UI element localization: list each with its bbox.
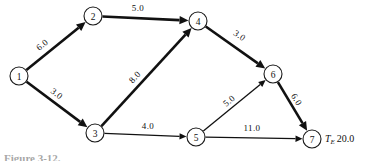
svg-text:TE20.0: TE20.0 — [325, 133, 354, 146]
edge-weight-4-to-6: 3.0 — [232, 28, 248, 43]
node-label-3: 3 — [93, 129, 98, 139]
node-label-5: 5 — [194, 133, 199, 143]
edge-3-to-5 — [104, 133, 186, 139]
edge-3-to-4 — [101, 28, 191, 126]
node-label-2: 2 — [91, 12, 96, 22]
node-7[interactable]: 7 — [303, 130, 321, 148]
node-label-6: 6 — [271, 70, 276, 80]
te-value: 20.0 — [337, 133, 355, 144]
edge-weight-2-to-4: 5.0 — [132, 3, 145, 13]
figure-caption: Figure 3-12. — [4, 152, 61, 161]
edge-weight-1-to-2: 6.0 — [34, 37, 50, 53]
node-5[interactable]: 5 — [187, 128, 205, 146]
edge-weight-3-to-5: 4.0 — [142, 121, 155, 131]
edge-weight-5-to-7: 11.0 — [243, 123, 260, 133]
edge-weight-5-to-6: 5.0 — [221, 93, 237, 109]
terminal-time-annotation: TE20.0 — [325, 133, 354, 146]
arrowhead-2-to-4 — [179, 16, 188, 24]
edge-2-to-4 — [102, 16, 188, 24]
arrowhead-3-to-5 — [179, 133, 186, 139]
node-6[interactable]: 6 — [264, 65, 282, 83]
node-1[interactable]: 1 — [10, 67, 28, 85]
nodes-layer: 1234567 — [10, 7, 321, 148]
arrowhead-5-to-7 — [295, 136, 302, 142]
node-label-7: 7 — [310, 135, 315, 145]
node-label-1: 1 — [17, 72, 22, 82]
node-label-4: 4 — [196, 17, 201, 27]
network-diagram: 6.03.05.08.04.03.05.011.06.0 1234567 TE2… — [0, 0, 369, 161]
edge-5-to-7 — [206, 136, 303, 142]
node-2[interactable]: 2 — [84, 7, 102, 25]
te-subscript: E — [330, 138, 336, 146]
network-canvas: 6.03.05.08.04.03.05.011.06.0 1234567 TE2… — [0, 0, 369, 161]
edge-6-to-7 — [278, 82, 307, 131]
node-4[interactable]: 4 — [189, 12, 207, 30]
node-3[interactable]: 3 — [86, 124, 104, 142]
